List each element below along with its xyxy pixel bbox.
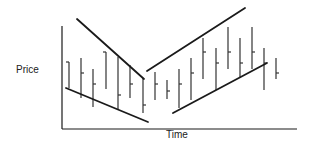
price-bar <box>103 52 106 89</box>
price-bar <box>252 27 255 69</box>
price-bar <box>203 38 206 79</box>
price-bar <box>143 78 146 113</box>
price-bar <box>179 69 182 108</box>
trend-lines <box>66 8 267 122</box>
price-bar <box>155 72 158 100</box>
uptrend-resistance <box>147 8 245 71</box>
price-bar <box>167 80 170 99</box>
price-bar <box>191 58 194 100</box>
price-bar <box>93 69 96 107</box>
price-bar <box>66 62 69 88</box>
y-axis-label: Price <box>16 64 39 75</box>
price-bars <box>66 27 279 113</box>
price-bar <box>216 48 219 90</box>
price-bar <box>264 48 267 90</box>
x-axis-label: Time <box>166 129 188 140</box>
price-chart <box>0 0 311 146</box>
price-bar <box>228 27 231 69</box>
price-bar <box>240 38 243 78</box>
downtrend-resistance <box>77 19 144 79</box>
downtrend-support <box>66 88 148 122</box>
price-bar <box>118 57 121 109</box>
price-bar <box>276 58 279 79</box>
uptrend-support <box>173 63 267 113</box>
price-bar <box>81 58 84 98</box>
